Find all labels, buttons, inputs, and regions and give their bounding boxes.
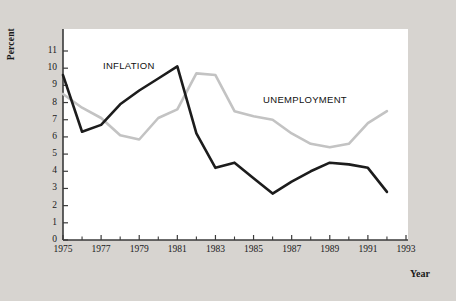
axis-tick-marks	[63, 51, 406, 240]
series-line-inflation	[63, 66, 387, 193]
series-line-unemployment	[63, 73, 387, 147]
data-series-lines	[63, 66, 387, 193]
chart-svg	[0, 0, 456, 301]
chart-figure: Percent Year 01234567891011 197519771979…	[0, 0, 456, 301]
